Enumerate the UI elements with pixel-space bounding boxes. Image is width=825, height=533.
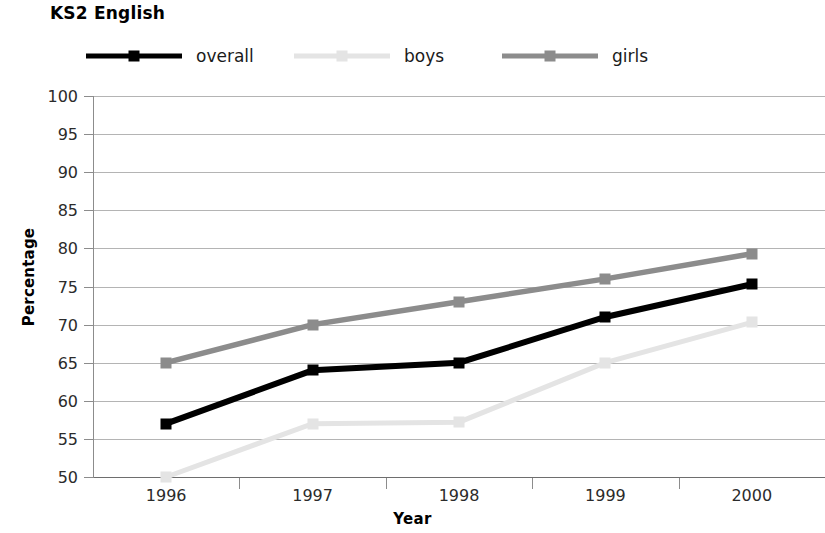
y-tick-label-100: 100: [32, 87, 78, 106]
gridline-70: [93, 325, 825, 326]
legend-marker-overall: [129, 51, 140, 62]
legend-swatch-boys-icon: [294, 45, 390, 67]
y-tick-label-50: 50: [32, 468, 78, 487]
legend-swatch-girls-icon: [502, 45, 598, 67]
x-tick-label-1999: 1999: [545, 486, 665, 505]
y-tick-55: [84, 439, 93, 440]
data-point-boys-1999: [600, 357, 611, 368]
gridline-75: [93, 287, 825, 288]
legend-item-girls[interactable]: girls: [502, 42, 648, 70]
data-point-girls-2000: [746, 248, 757, 259]
y-tick-label-85: 85: [32, 201, 78, 220]
gridline-100: [93, 96, 825, 97]
x-tick-label-2000: 2000: [692, 486, 812, 505]
data-point-boys-1996: [161, 472, 172, 483]
y-tick-85: [84, 210, 93, 211]
legend-label-girls: girls: [612, 46, 648, 66]
x-tick-2: [386, 478, 387, 489]
legend-label-overall: overall: [196, 46, 254, 66]
data-point-girls-1999: [600, 273, 611, 284]
y-tick-95: [84, 134, 93, 135]
y-tick-label-55: 55: [32, 429, 78, 448]
gridline-60: [93, 401, 825, 402]
y-tick-60: [84, 401, 93, 402]
data-point-overall-1997: [307, 365, 318, 376]
y-tick-label-60: 60: [32, 391, 78, 410]
x-tick-4: [679, 478, 680, 489]
gridline-50: [93, 477, 825, 478]
legend-marker-girls: [545, 51, 556, 62]
y-tick-65: [84, 363, 93, 364]
x-tick-label-1996: 1996: [106, 486, 226, 505]
y-axis-tick-labels: 50556065707580859095100: [28, 0, 78, 533]
y-tick-label-75: 75: [32, 277, 78, 296]
data-point-boys-2000: [746, 317, 757, 328]
data-point-overall-2000: [746, 279, 757, 290]
data-point-girls-1997: [307, 319, 318, 330]
gridline-55: [93, 439, 825, 440]
x-tick-3: [532, 478, 533, 489]
data-point-overall-1999: [600, 311, 611, 322]
chart-legend: overallboysgirls: [86, 42, 766, 70]
y-tick-90: [84, 172, 93, 173]
y-tick-label-80: 80: [32, 239, 78, 258]
gridline-80: [93, 248, 825, 249]
y-tick-label-95: 95: [32, 125, 78, 144]
y-tick-label-90: 90: [32, 163, 78, 182]
data-point-girls-1998: [454, 296, 465, 307]
gridline-95: [93, 134, 825, 135]
y-tick-70: [84, 325, 93, 326]
legend-item-boys[interactable]: boys: [294, 42, 444, 70]
y-tick-75: [84, 287, 93, 288]
x-tick-1: [239, 478, 240, 489]
data-point-boys-1997: [307, 418, 318, 429]
y-tick-100: [84, 96, 93, 97]
data-point-girls-1996: [161, 357, 172, 368]
gridline-90: [93, 172, 825, 173]
y-axis-line: [93, 96, 94, 478]
x-axis-title: Year: [0, 510, 825, 528]
data-point-overall-1998: [454, 357, 465, 368]
x-tick-label-1997: 1997: [253, 486, 373, 505]
data-point-overall-1996: [161, 418, 172, 429]
y-tick-80: [84, 248, 93, 249]
y-tick-label-65: 65: [32, 353, 78, 372]
y-tick-label-70: 70: [32, 315, 78, 334]
y-tick-50: [84, 477, 93, 478]
gridline-85: [93, 210, 825, 211]
legend-item-overall[interactable]: overall: [86, 42, 254, 70]
x-tick-label-1998: 1998: [399, 486, 519, 505]
legend-label-boys: boys: [404, 46, 444, 66]
data-point-boys-1998: [454, 417, 465, 428]
legend-swatch-overall-icon: [86, 45, 182, 67]
legend-marker-boys: [337, 51, 348, 62]
